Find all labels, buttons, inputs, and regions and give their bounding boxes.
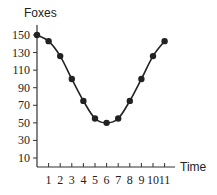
x-tick-label: 10 xyxy=(147,173,159,187)
data-point-marker xyxy=(127,98,133,104)
x-tick-label: 7 xyxy=(115,173,121,187)
x-tick-label: 3 xyxy=(69,173,75,187)
data-point-marker xyxy=(80,98,86,104)
data-point-marker xyxy=(92,115,98,121)
x-tick-label: 5 xyxy=(92,173,98,187)
y-tick-label: 150 xyxy=(12,28,30,42)
foxes-line xyxy=(37,35,165,123)
x-tick-label: 9 xyxy=(138,173,144,187)
y-axis-title: Foxes xyxy=(24,6,57,20)
data-point-marker xyxy=(57,53,63,59)
data-point-marker xyxy=(69,76,75,82)
y-tick-label: 10 xyxy=(18,151,30,165)
x-axis-title: Time xyxy=(180,160,207,174)
y-tick-label: 70 xyxy=(18,98,30,112)
x-tick-label: 2 xyxy=(57,173,63,187)
y-tick-label: 30 xyxy=(18,133,30,147)
data-point-marker xyxy=(115,115,121,121)
data-point-marker xyxy=(103,120,109,126)
x-tick-label: 11 xyxy=(159,173,171,187)
y-tick-label: 130 xyxy=(12,46,30,60)
data-point-marker xyxy=(150,53,156,59)
data-point-marker xyxy=(45,38,51,44)
y-tick-label: 110 xyxy=(12,63,30,77)
data-point-marker xyxy=(138,76,144,82)
x-tick-label: 6 xyxy=(104,173,110,187)
fox-population-chart: FoxesTime1030507090110130150123456789101… xyxy=(0,0,217,195)
x-tick-label: 8 xyxy=(127,173,133,187)
x-tick-label: 4 xyxy=(80,173,86,187)
data-point-marker xyxy=(161,38,167,44)
y-tick-label: 50 xyxy=(18,116,30,130)
data-point-marker xyxy=(34,32,40,38)
x-tick-label: 1 xyxy=(46,173,52,187)
y-tick-label: 90 xyxy=(18,81,30,95)
